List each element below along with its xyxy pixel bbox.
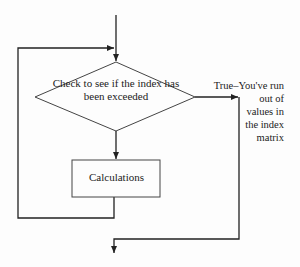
- true-branch-label: True–You've run out of values in the ind…: [196, 79, 284, 144]
- calculations-label: Calculations: [73, 171, 160, 184]
- true-branch-label-line: the index: [196, 118, 284, 131]
- true-branch-label-line: out of: [196, 92, 284, 105]
- decision-label: Check to see if the index has been excee…: [52, 77, 180, 103]
- loop-back-arrow: [18, 48, 114, 218]
- true-branch-label-line: matrix: [196, 131, 284, 144]
- true-branch-label-line: True–You've run: [196, 79, 284, 92]
- true-branch-label-line: values in: [196, 105, 284, 118]
- flowchart-canvas: Check to see if the index has been excee…: [0, 0, 300, 267]
